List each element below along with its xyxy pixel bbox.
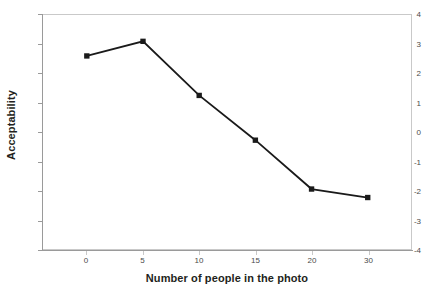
x-tick-label: 20 [292, 256, 332, 265]
y-tick-mark [38, 44, 42, 45]
x-tick-mark [143, 251, 144, 255]
data-point-marker [84, 53, 89, 58]
x-tick-label: 15 [236, 256, 276, 265]
x-axis-title: Number of people in the photo [42, 272, 412, 284]
x-tick-label: 5 [123, 256, 163, 265]
y-tick-label: 2 [391, 69, 427, 78]
y-tick-label: 0 [391, 128, 427, 137]
data-point-marker [309, 186, 314, 191]
series-line [87, 41, 368, 197]
y-tick-mark [38, 14, 42, 15]
x-axis-spine [42, 250, 413, 251]
data-point-marker [365, 195, 370, 200]
x-tick-label: 30 [349, 256, 389, 265]
y-axis-title: Acceptability [0, 0, 22, 250]
y-tick-mark [38, 73, 42, 74]
y-axis-title-text: Acceptability [5, 90, 17, 160]
x-tick-mark [199, 251, 200, 255]
data-point-marker [197, 93, 202, 98]
y-tick-label: 1 [391, 98, 427, 107]
data-point-marker [140, 39, 145, 44]
y-tick-mark [38, 221, 42, 222]
y-tick-label: 4 [391, 10, 427, 19]
x-tick-label: 0 [66, 256, 106, 265]
y-tick-label: -2 [391, 187, 427, 196]
x-tick-mark [256, 251, 257, 255]
y-tick-label: -4 [391, 246, 427, 255]
y-tick-label: 3 [391, 39, 427, 48]
plot-area [42, 14, 412, 250]
y-tick-label: -1 [391, 157, 427, 166]
y-tick-mark [38, 162, 42, 163]
y-tick-label: -3 [391, 216, 427, 225]
y-tick-mark [38, 103, 42, 104]
y-tick-mark [38, 250, 42, 251]
x-tick-label: 10 [179, 256, 219, 265]
line-series-svg [43, 15, 411, 249]
data-point-marker [253, 138, 258, 143]
y-axis-spine [42, 14, 43, 251]
y-tick-mark [38, 132, 42, 133]
chart-figure: Acceptability 43210-1-2-3-4 0510152030 N… [0, 0, 427, 297]
x-tick-mark [312, 251, 313, 255]
x-tick-mark [369, 251, 370, 255]
y-tick-mark [38, 191, 42, 192]
x-tick-mark [86, 251, 87, 255]
